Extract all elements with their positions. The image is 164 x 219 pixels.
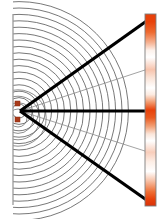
source-upper <box>15 101 20 106</box>
intensity-screen <box>145 14 156 206</box>
interference-diagram-figure: Two-source circular wave interference di… <box>0 0 164 219</box>
diagram-canvas <box>0 0 164 219</box>
source-lower <box>15 117 20 122</box>
